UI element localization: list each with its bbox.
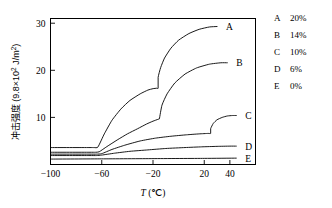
x-tick-label: 40	[225, 169, 235, 179]
legend-key-c: C	[274, 48, 290, 57]
impact-strength-chart: −100−60−202040 102030 ABCDE T (℃) 冲击强度 (…	[0, 0, 332, 208]
legend-value-b: 14%	[290, 31, 307, 40]
y-tick-label: 20	[36, 66, 46, 76]
legend-item: A 20%	[274, 14, 332, 31]
curve-label-a: A	[226, 22, 233, 32]
legend-item: E 0%	[274, 82, 332, 99]
legend-value-d: 6%	[290, 65, 302, 74]
y-axis-title-close: J/m	[11, 50, 21, 67]
y-axis-title: 冲击强度 (9.8×102 J/m2)	[10, 44, 21, 141]
legend-value-c: 10%	[290, 48, 307, 57]
legend-key-d: D	[274, 65, 290, 74]
curve-end-labels: ABCDE	[226, 22, 252, 164]
x-tick-label: −60	[94, 169, 109, 179]
y-axis-title-open: (9.8×10	[11, 71, 21, 104]
y-axis-title-name: 冲击强度	[10, 104, 21, 140]
y-tick-label: 10	[36, 113, 46, 123]
legend-item: D 6%	[274, 65, 332, 82]
x-axis-tick-labels: −100−60−202040	[41, 169, 235, 179]
x-tick-label: 20	[200, 169, 210, 179]
x-tick-label: −20	[146, 169, 161, 179]
x-axis-ticks	[51, 160, 230, 165]
curve-label-c: C	[245, 111, 251, 121]
legend-item: C 10%	[274, 48, 332, 65]
legend-key-a: A	[274, 14, 290, 23]
curve-a	[51, 27, 218, 148]
curve-c	[51, 116, 237, 155]
y-axis-tick-labels: 102030	[36, 19, 46, 123]
x-axis-title-unit: (℃)	[146, 188, 166, 199]
curve-e	[51, 158, 237, 159]
curve-b	[51, 63, 228, 153]
legend: A 20% B 14% C 10% D 6% E 0%	[274, 14, 332, 99]
legend-key-e: E	[274, 82, 290, 91]
x-axis-title: T (℃)	[141, 188, 166, 199]
data-curves	[51, 27, 237, 160]
legend-key-b: B	[274, 31, 290, 40]
legend-value-e: 0%	[290, 82, 302, 91]
curve-label-b: B	[236, 58, 242, 68]
legend-item: B 14%	[274, 31, 332, 48]
legend-value-a: 20%	[290, 14, 307, 23]
y-tick-label: 30	[36, 19, 46, 29]
plot-frame	[51, 19, 256, 165]
y-axis-ticks	[51, 23, 56, 117]
y-axis-title-tail: )	[11, 44, 21, 47]
x-tick-label: −100	[41, 169, 61, 179]
curve-label-e: E	[245, 154, 251, 164]
curve-label-d: D	[245, 142, 252, 152]
